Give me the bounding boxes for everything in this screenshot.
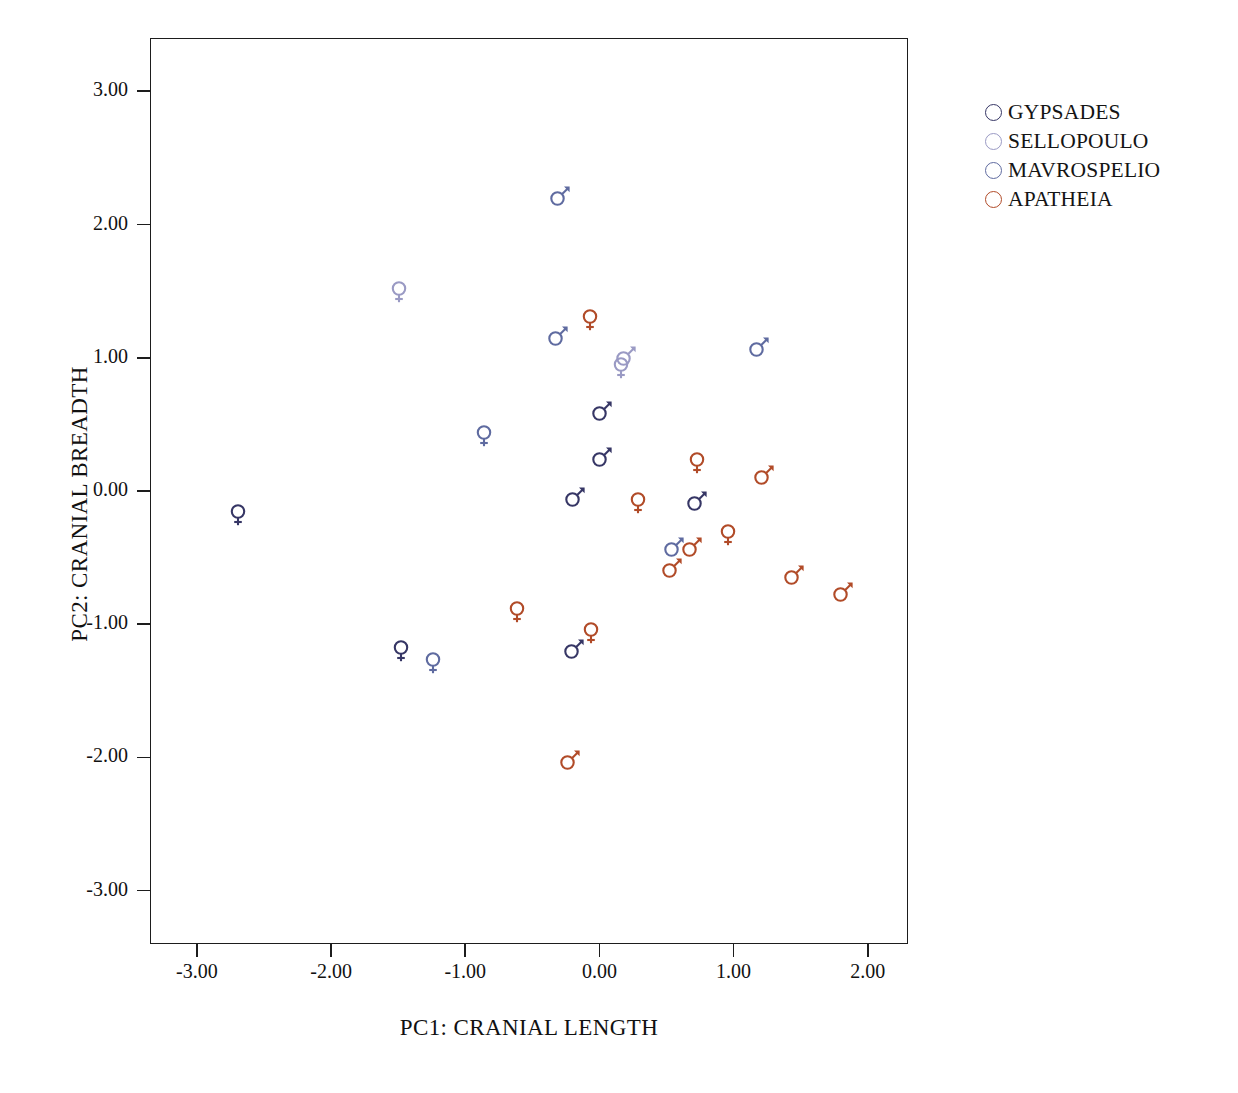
data-point [613, 343, 639, 369]
data-point [659, 555, 685, 581]
x-tick [599, 944, 601, 957]
legend-circle-icon [985, 104, 1002, 121]
data-point [746, 334, 772, 360]
data-point [589, 444, 615, 470]
legend-item[interactable]: GYPSADES [985, 98, 1235, 127]
y-tick [137, 357, 150, 359]
data-point [577, 307, 603, 333]
y-tick [137, 623, 150, 625]
x-tick-label: -1.00 [420, 960, 510, 983]
x-tick-label: 1.00 [689, 960, 779, 983]
data-point [471, 423, 497, 449]
data-point [420, 650, 446, 676]
x-tick [867, 944, 869, 957]
legend-item[interactable]: APATHEIA [985, 185, 1235, 214]
legend-item-label: APATHEIA [1008, 187, 1113, 212]
data-point [684, 450, 710, 476]
legend-circle-icon [985, 191, 1002, 208]
y-tick [137, 757, 150, 759]
legend-item-label: MAVROSPELIO [1008, 158, 1160, 183]
y-tick-label: 3.00 [38, 78, 128, 101]
x-tick [196, 944, 198, 957]
data-point [830, 579, 856, 605]
data-point [557, 747, 583, 773]
legend-item[interactable]: MAVROSPELIO [985, 156, 1235, 185]
data-point [545, 323, 571, 349]
data-point [225, 502, 251, 528]
data-point [578, 620, 604, 646]
data-point [562, 484, 588, 510]
legend-circle-icon [985, 162, 1002, 179]
data-point [751, 462, 777, 488]
legend-item-label: GYPSADES [1008, 100, 1121, 125]
plot-area [150, 38, 908, 944]
legend-circle-icon [985, 133, 1002, 150]
y-tick [137, 490, 150, 492]
data-point [625, 490, 651, 516]
data-point [386, 279, 412, 305]
x-tick-label: 2.00 [823, 960, 913, 983]
y-tick [137, 224, 150, 226]
x-tick-label: 0.00 [554, 960, 644, 983]
x-tick [464, 944, 466, 957]
data-point [504, 599, 530, 625]
legend: GYPSADESSELLOPOULOMAVROSPELIOAPATHEIA [985, 98, 1235, 214]
data-point [781, 562, 807, 588]
data-point [684, 488, 710, 514]
y-tick [137, 90, 150, 92]
data-point [589, 398, 615, 424]
data-point [547, 183, 573, 209]
data-point [388, 638, 414, 664]
x-axis-title: PC1: CRANIAL LENGTH [150, 1015, 908, 1041]
data-point [715, 522, 741, 548]
x-tick [733, 944, 735, 957]
x-tick-label: -3.00 [152, 960, 242, 983]
legend-item-label: SELLOPOULO [1008, 129, 1149, 154]
x-tick [330, 944, 332, 957]
legend-item[interactable]: SELLOPOULO [985, 127, 1235, 156]
y-axis-title: PC2: CRANIAL BREADTH [67, 124, 93, 884]
y-tick [137, 890, 150, 892]
scatter-plot-page: -3.00-2.00-1.000.001.002.00 3.002.001.00… [0, 0, 1238, 1093]
x-tick-label: -2.00 [286, 960, 376, 983]
